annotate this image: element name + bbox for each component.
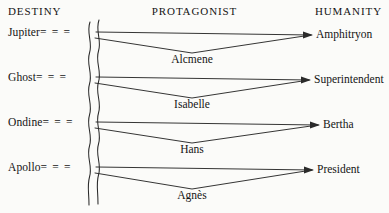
destiny-name-row-2: Ghost xyxy=(8,71,36,83)
arrowheads xyxy=(301,32,320,174)
destiny-name-row-3: Ondine xyxy=(8,116,42,128)
upper-line-row-3 xyxy=(96,122,318,125)
wavy-line-right xyxy=(97,20,99,204)
humanity-label-row-4: President xyxy=(317,163,360,175)
arrowhead-row-3 xyxy=(310,122,320,129)
lower-line-row-1 xyxy=(95,35,311,53)
arrowhead-row-4 xyxy=(304,167,314,174)
lower-line-row-3 xyxy=(95,125,318,143)
destiny-name-row-4: Apollo xyxy=(8,161,41,173)
destiny-label-row-2: Ghost= = = xyxy=(8,71,67,83)
wavy-line-left xyxy=(88,22,90,205)
destiny-connector-row-1: = = = xyxy=(40,26,71,38)
protagonist-label-row-2: Isabelle xyxy=(174,98,210,110)
lower-line-row-4 xyxy=(95,170,312,189)
upper-line-row-2 xyxy=(96,77,309,80)
destiny-connector-row-2: = = = xyxy=(36,71,67,83)
arrowhead-row-1 xyxy=(303,32,313,39)
row-lines-1 xyxy=(95,32,311,53)
diagram-page: DESTINY PROTAGONIST HUMANITY Jupiter= = … xyxy=(0,0,389,213)
humanity-label-row-1: Amphitryon xyxy=(316,28,372,40)
destiny-name-row-1: Jupiter xyxy=(8,26,40,38)
upper-line-row-4 xyxy=(96,167,312,170)
lower-line-row-2 xyxy=(95,80,309,98)
row-lines-4 xyxy=(95,167,312,189)
destiny-label-row-3: Ondine= = = xyxy=(8,116,74,128)
arrowhead-row-2 xyxy=(301,77,311,84)
column-header-humanity: HUMANITY xyxy=(315,5,382,17)
humanity-label-row-3: Bertha xyxy=(323,118,354,130)
protagonist-label-row-1: Alcmene xyxy=(171,53,213,65)
destiny-connector-row-4: = = = xyxy=(41,161,72,173)
upper-line-row-1 xyxy=(96,32,311,35)
row-lines-2 xyxy=(95,77,309,98)
wavy-barrier xyxy=(88,20,99,205)
protagonist-label-row-3: Hans xyxy=(180,143,204,155)
destiny-label-row-4: Apollo= = = xyxy=(8,161,72,173)
row-lines-3 xyxy=(95,122,318,143)
destiny-connector-row-3: = = = xyxy=(42,116,73,128)
protagonist-label-row-4: Agnès xyxy=(177,189,206,201)
humanity-label-row-2: Superintendent xyxy=(314,73,384,85)
destiny-label-row-1: Jupiter= = = xyxy=(8,26,71,38)
